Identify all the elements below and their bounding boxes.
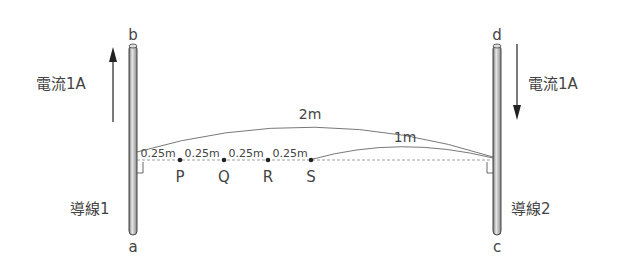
distance-2m: 2m — [299, 106, 322, 122]
wire-1 — [129, 44, 137, 235]
segment-label-2: 0.25m — [184, 147, 219, 160]
current-arrow-down-icon — [513, 44, 521, 120]
wire-label-1: 導線1 — [70, 200, 110, 218]
right-angle-mark-1 — [137, 162, 143, 173]
point-r — [266, 158, 271, 163]
label-b: b — [128, 26, 138, 44]
current-label-2: 電流1A — [528, 75, 579, 93]
label-c: c — [493, 238, 501, 256]
distance-1m: 1m — [394, 129, 417, 145]
label-a: a — [128, 238, 137, 256]
point-p — [178, 158, 183, 163]
point-label-q: Q — [218, 168, 230, 186]
point-label-s: S — [306, 168, 316, 186]
current-label-1: 電流1A — [36, 75, 87, 93]
wire-label-2: 導線2 — [511, 200, 551, 218]
current-arrow-up-icon — [109, 47, 117, 122]
point-q — [222, 158, 227, 163]
point-s — [309, 158, 314, 163]
right-angle-mark-2 — [487, 162, 493, 173]
wire-2 — [493, 44, 501, 235]
segment-label-4: 0.25m — [272, 147, 307, 160]
diagram-root: b a d c 電流1A 電流1A 導線1 導線2 2m 1m 0.25m 0.… — [0, 0, 627, 269]
segment-label-1: 0.25m — [140, 147, 175, 160]
segment-label-3: 0.25m — [228, 147, 263, 160]
point-label-r: R — [263, 168, 273, 186]
diagram-canvas: b a d c 電流1A 電流1A 導線1 導線2 2m 1m 0.25m 0.… — [0, 0, 627, 269]
label-d: d — [492, 26, 502, 44]
point-label-p: P — [175, 168, 184, 186]
